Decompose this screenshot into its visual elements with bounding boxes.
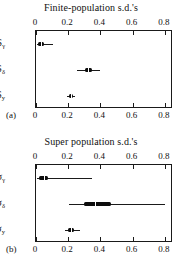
box-plot-interval [77,67,101,73]
box-median-marker [95,202,96,207]
x-tick-bottom [165,103,166,107]
x-tick-label-top: 0.2 [62,151,73,161]
x-tick-label-bottom: 0.6 [126,110,137,120]
y-category-label: Sδ [0,63,5,75]
box-plot-interval [65,227,80,233]
x-tick-label-top: 0 [33,151,38,161]
x-tick-bottom [36,237,37,241]
panel-a-letter: (a) [6,110,16,120]
figure-boxplot-panels: Finite-population s.d.'s (a) 000.20.20.4… [0,0,182,268]
x-tick-top [165,31,166,35]
x-tick-top [68,165,69,169]
x-tick-label-bottom: 0.6 [126,244,137,254]
box-median-marker [41,42,42,47]
box-plot-interval [37,41,53,47]
x-tick-label-top: 0.6 [126,151,137,161]
x-tick-label-top: 0.6 [126,17,137,27]
x-tick-top [165,165,166,169]
x-tick-bottom [68,103,69,107]
x-tick-label-top: 0.2 [62,17,73,27]
box-median-marker [88,68,89,73]
row-label-subscript: γ [2,42,5,49]
box-median-marker [44,176,45,181]
x-tick-label-top: 0.8 [158,17,169,27]
x-tick-label-bottom: 0.4 [94,244,105,254]
x-tick-label-top: 0 [33,17,38,27]
x-tick-label-bottom: 0.2 [62,244,73,254]
x-tick-bottom [68,237,69,241]
x-tick-label-top: 0.4 [94,17,105,27]
row-label-subscript: γ [2,176,5,183]
x-tick-top [68,31,69,35]
panel-b-letter: (b) [6,244,17,254]
x-tick-bottom [36,103,37,107]
box-plot-interval [37,175,92,181]
x-tick-bottom [100,103,101,107]
y-category-label: σδ [0,197,5,209]
panel-b-title: Super population s.d.'s [0,136,182,148]
box-iqr [84,202,111,206]
x-tick-bottom [133,103,134,107]
row-label-subscript: δ [2,202,5,209]
y-category-label: Sγ [0,37,5,49]
x-tick-bottom [165,237,166,241]
x-tick-bottom [133,237,134,241]
panel-a-plot-frame [35,30,172,108]
x-tick-label-bottom: 0.4 [94,110,105,120]
x-tick-top [100,31,101,35]
x-tick-top [100,165,101,169]
x-tick-label-bottom: 0.2 [62,110,73,120]
y-category-label: σγ [0,171,5,183]
x-tick-label-bottom: 0.8 [158,244,169,254]
panel-b-plot-frame [35,164,172,242]
x-tick-label-bottom: 0.8 [158,110,169,120]
row-label-subscript: δ [2,68,5,75]
panel-b: Super population s.d.'s (b) 000.20.20.40… [0,134,182,268]
panel-a: Finite-population s.d.'s (a) 000.20.20.4… [0,0,182,134]
row-label-subscript: y [2,228,5,235]
x-tick-top [36,165,37,169]
x-tick-label-top: 0.4 [94,151,105,161]
x-tick-top [133,31,134,35]
panel-a-title: Finite-population s.d.'s [0,2,182,14]
box-median-marker [71,228,72,233]
x-tick-bottom [100,237,101,241]
box-median-marker [71,94,72,99]
y-category-label: σy [0,223,5,235]
x-tick-top [133,165,134,169]
y-category-label: Sy [0,89,5,101]
x-tick-label-bottom: 0 [33,110,38,120]
x-tick-label-top: 0.8 [158,151,169,161]
x-tick-top [36,31,37,35]
box-plot-interval [67,93,76,99]
row-label-subscript: y [2,94,5,101]
x-tick-label-bottom: 0 [33,244,38,254]
box-plot-interval [69,201,165,207]
